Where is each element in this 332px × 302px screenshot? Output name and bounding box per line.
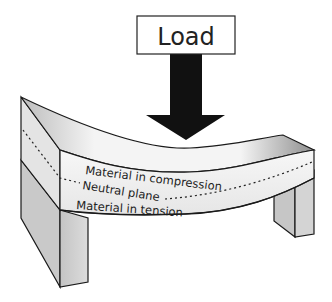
left-leg-front: [60, 210, 88, 287]
beam-bending-diagram: Material in compression Neutral plane Ma…: [0, 0, 332, 302]
load-label: Load: [157, 23, 215, 51]
load-arrow-icon: [146, 53, 225, 140]
